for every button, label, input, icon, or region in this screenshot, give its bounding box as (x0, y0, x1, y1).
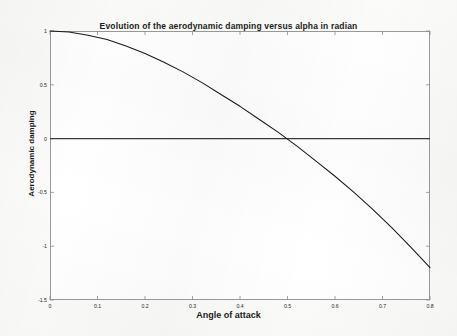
x-tick-label: 0 (49, 303, 52, 309)
figure-canvas: Evolution of the aerodynamic damping ver… (0, 0, 457, 336)
damping-curve (50, 31, 430, 268)
x-tick-label: 0.6 (331, 303, 338, 309)
y-axis-ticks (50, 31, 430, 300)
x-axis-label: Angle of attack (0, 310, 457, 320)
x-tick-label: 0.8 (426, 303, 433, 309)
y-tick-label: -1 (28, 243, 47, 249)
y-tick-label: 1 (28, 28, 47, 34)
y-tick-label: -1.5 (28, 297, 47, 303)
x-tick-label: 0.3 (189, 303, 196, 309)
x-tick-label: 0.4 (236, 303, 243, 309)
chart-graphics (0, 0, 457, 336)
x-axis-ticks (50, 31, 430, 300)
x-tick-label: 0.7 (379, 303, 386, 309)
x-tick-label: 0.2 (141, 303, 148, 309)
x-tick-label: 0.1 (94, 303, 101, 309)
y-axis-label: Aerodynamic damping (27, 74, 36, 234)
x-tick-label: 0.5 (284, 303, 291, 309)
